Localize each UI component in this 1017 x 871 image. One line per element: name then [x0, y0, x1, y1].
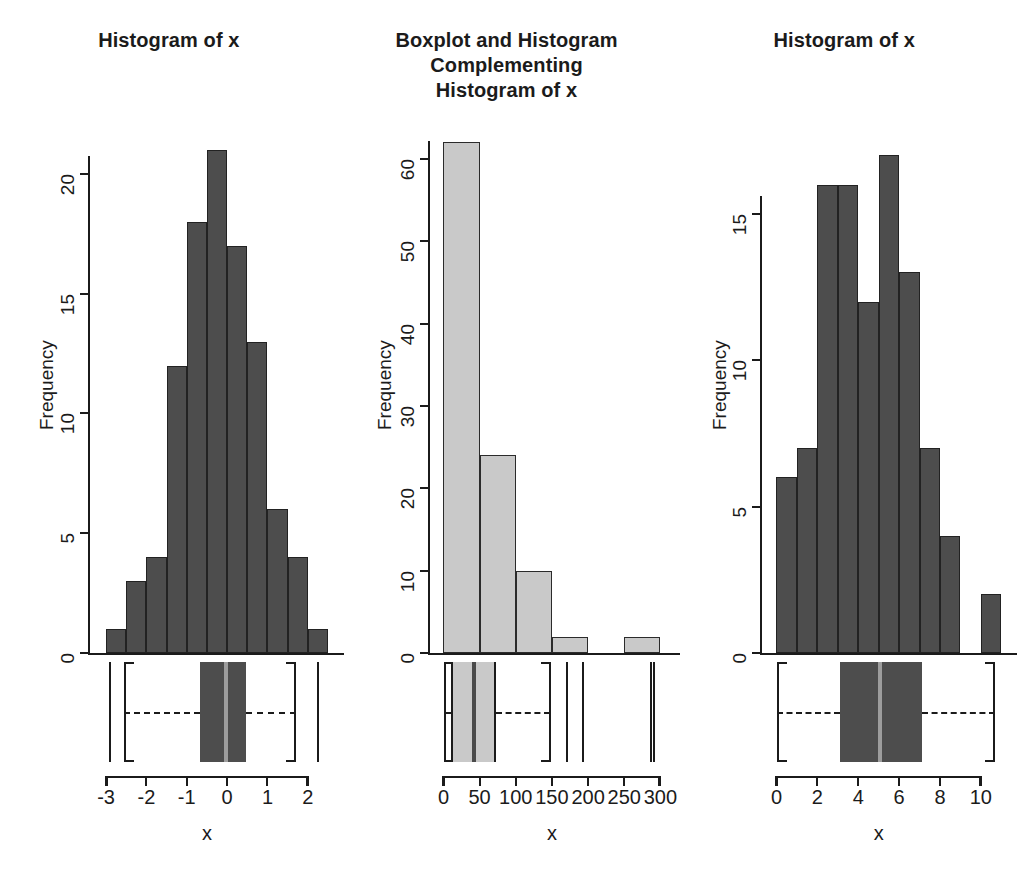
- histogram-bar: [838, 185, 858, 653]
- x-tick-label: 300: [644, 786, 677, 809]
- panel-2-y-tick-label: 50: [397, 241, 419, 262]
- histogram-bar: [624, 637, 660, 653]
- panel-2-y-tick: [420, 405, 428, 407]
- boxplot-box-edge-left: [451, 662, 453, 762]
- panel-3-y-tick-label: 5: [729, 507, 751, 518]
- histogram-bar: [288, 557, 308, 653]
- histogram-bar: [106, 629, 126, 653]
- boxplot-outlier: [650, 662, 652, 762]
- histogram-bar: [207, 150, 227, 653]
- histogram-bar: [516, 571, 552, 653]
- panel-2-y-tick: [420, 323, 428, 325]
- x-tick: [659, 776, 661, 786]
- histogram-bar: [308, 629, 328, 653]
- histogram-bar: [940, 536, 960, 653]
- x-tick: [186, 776, 188, 786]
- boxplot-whisker-cap-high: [286, 662, 296, 762]
- x-tick-label: 0: [771, 786, 782, 809]
- panel-3-y-tick: [752, 359, 760, 361]
- histogram-bar: [981, 594, 1001, 653]
- x-tick-label: 8: [934, 786, 945, 809]
- boxplot-whisker-cap-high: [985, 662, 995, 762]
- panel-1-baseline: [88, 653, 344, 655]
- x-tick: [775, 776, 777, 786]
- panel-3-y-tick: [752, 506, 760, 508]
- panel-2-y-tick: [420, 570, 428, 572]
- histogram-bar: [443, 142, 479, 653]
- panel-3-y-tick: [752, 652, 760, 654]
- histogram-bar: [817, 185, 837, 653]
- panel-2-y-axis-line: [428, 141, 430, 653]
- x-tick: [479, 776, 481, 786]
- x-axis-line: [776, 776, 980, 778]
- boxplot-whisker-cap-low: [124, 662, 134, 762]
- x-tick-label: 150: [535, 786, 568, 809]
- histogram-bar: [480, 455, 516, 653]
- x-tick: [857, 776, 859, 786]
- histogram-bar: [146, 557, 166, 653]
- boxplot-outlier: [317, 662, 319, 762]
- boxplot-median-line: [472, 662, 476, 762]
- histogram-bar: [797, 448, 817, 653]
- panel-3-title: Histogram of x: [675, 28, 1013, 53]
- x-axis-line: [106, 776, 308, 778]
- x-tick: [266, 776, 268, 786]
- histogram-bar: [899, 272, 919, 653]
- histogram-bar: [247, 342, 267, 653]
- panel-1-y-tick: [80, 532, 88, 534]
- boxplot-whisker-cap-high: [541, 662, 551, 762]
- panel-2-y-tick-label: 10: [397, 571, 419, 592]
- x-tick-label: 100: [499, 786, 532, 809]
- histogram-bar: [126, 581, 146, 653]
- boxplot-outlier: [653, 662, 655, 762]
- x-tick: [898, 776, 900, 786]
- panel-2-y-tick-label: 20: [397, 488, 419, 509]
- x-tick: [623, 776, 625, 786]
- panel-3-y-tick: [752, 213, 760, 215]
- x-tick-label: 0: [222, 786, 233, 809]
- x-tick: [105, 776, 107, 786]
- boxplot-whisker-cap-low: [777, 662, 787, 762]
- panel-1-ylabel: Frequency: [36, 340, 58, 430]
- panel-2-y-tick-label: 40: [397, 324, 419, 345]
- boxplot-whisker-right: [922, 712, 996, 714]
- panel-1-xlabel: x: [106, 822, 308, 845]
- panel-1-y-tick: [80, 412, 88, 414]
- x-tick: [816, 776, 818, 786]
- histogram-bar: [776, 477, 796, 653]
- panel-2-y-tick-label: 0: [397, 653, 419, 664]
- panel-2-ylabel: Frequency: [374, 340, 396, 430]
- panel-3-y-tick-label: 10: [729, 360, 751, 381]
- panel-2-y-tick-label: 30: [397, 406, 419, 427]
- x-tick: [226, 776, 228, 786]
- panel-1-y-tick-label: 10: [57, 413, 79, 434]
- boxplot-whisker-left: [124, 712, 199, 714]
- x-tick: [587, 776, 589, 786]
- x-tick: [307, 776, 309, 786]
- boxplot-median-line: [878, 662, 882, 762]
- panel-2: Boxplot and Histogram Complementing Hist…: [338, 0, 676, 871]
- panel-2-baseline: [428, 653, 680, 655]
- histogram-bar: [167, 366, 187, 653]
- panel-1-y-axis-line: [88, 156, 90, 653]
- x-tick-label: 200: [571, 786, 604, 809]
- x-tick-label: 0: [438, 786, 449, 809]
- histogram-bar: [879, 155, 899, 653]
- panel-1-y-tick-label: 5: [57, 533, 79, 544]
- x-tick: [145, 776, 147, 786]
- panel-2-y-tick: [420, 240, 428, 242]
- panel-1-y-tick: [80, 173, 88, 175]
- boxplot-outlier: [109, 662, 111, 762]
- boxplot-outlier: [566, 662, 568, 762]
- x-tick: [442, 776, 444, 786]
- x-tick-label: 1: [262, 786, 273, 809]
- histogram-bar: [227, 246, 247, 653]
- panel-1-y-tick-label: 15: [57, 294, 79, 315]
- panel-3-baseline: [760, 653, 1017, 655]
- panel-2-xlabel: x: [443, 822, 660, 845]
- histogram-bar: [920, 448, 940, 653]
- panel-1-title: Histogram of x: [0, 28, 338, 53]
- panel-1: Histogram of x Frequency x 05101520-3-2-…: [0, 0, 338, 871]
- x-tick: [980, 776, 982, 786]
